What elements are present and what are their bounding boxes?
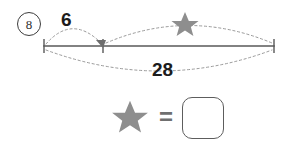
label-total: 28: [152, 60, 173, 79]
label-known-part: 6: [61, 10, 72, 29]
answer-input-box[interactable]: [182, 97, 224, 139]
star-icon-answer: [110, 98, 150, 138]
worksheet-problem: 8 6 28: [0, 0, 302, 144]
equals-sign: =: [159, 105, 173, 129]
arc-known-part: [46, 29, 101, 44]
star-icon: [171, 12, 198, 36]
answer-row: =: [110, 96, 224, 140]
